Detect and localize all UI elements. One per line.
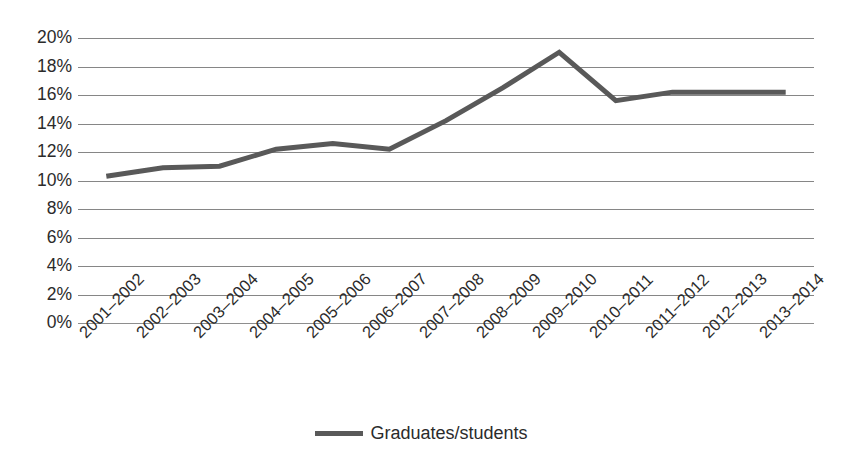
y-tick-label: 18%	[0, 58, 72, 76]
series-line-graduates-students	[106, 52, 785, 176]
y-tick-label: 16%	[0, 86, 72, 104]
legend-item-label: Graduates/students	[370, 424, 527, 442]
y-tick-label: 12%	[0, 143, 72, 161]
y-tick-label: 2%	[0, 286, 72, 304]
plot-area	[78, 38, 814, 323]
y-tick-label: 10%	[0, 172, 72, 190]
y-axis: 20%18%16%14%12%10%8%6%4%2%0%	[0, 0, 72, 470]
series-layer	[78, 38, 814, 323]
y-tick-label: 8%	[0, 200, 72, 218]
y-tick-label: 14%	[0, 115, 72, 133]
legend-line-swatch-icon	[315, 431, 363, 436]
line-chart: 20%18%16%14%12%10%8%6%4%2%0% 2001–200220…	[0, 0, 843, 470]
y-tick-label: 6%	[0, 229, 72, 247]
x-axis: 2001–20022002–20032003–20042004–20052005…	[78, 323, 814, 423]
gridline	[78, 323, 814, 324]
legend-item-graduates-students: Graduates/students	[315, 424, 527, 442]
y-tick-label: 0%	[0, 314, 72, 332]
y-tick-label: 20%	[0, 29, 72, 47]
chart-legend: Graduates/students	[0, 424, 843, 442]
y-tick-label: 4%	[0, 257, 72, 275]
